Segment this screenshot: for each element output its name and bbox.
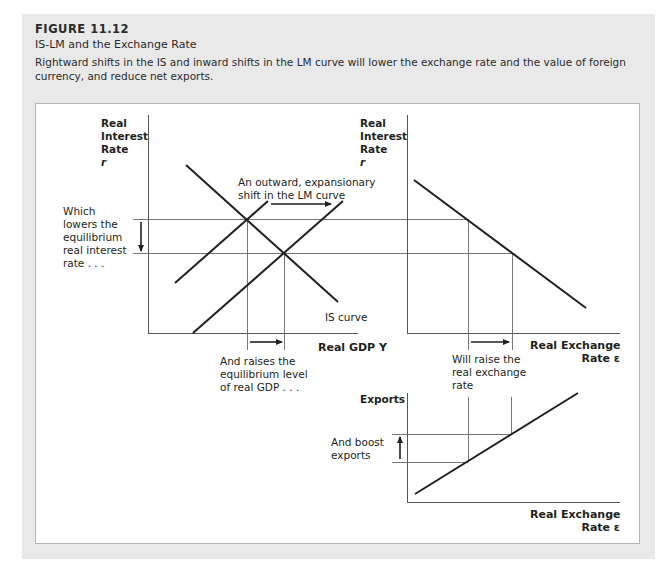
x-label-line: Real Exchange — [530, 508, 620, 521]
exchange-x-axis-label: Real Exchange Rate ε — [530, 339, 620, 365]
lm-curve-initial — [175, 201, 268, 283]
x-label-line: Rate ε — [530, 521, 620, 534]
y-label-line: Real — [360, 117, 407, 130]
annotation-line: An outward, expansionary — [238, 176, 376, 189]
annotation-line: equilibrium — [63, 231, 127, 244]
annotation-line: rate — [452, 379, 526, 392]
annotation-line: And raises the — [220, 355, 308, 368]
exchange-rate-curve — [414, 180, 586, 308]
x-label-line: Real Exchange — [530, 339, 620, 352]
exchange-guide-lines — [469, 219, 513, 350]
exports-rise-annotation: And boost exports — [331, 436, 384, 462]
exports-curve — [415, 393, 578, 494]
annotation-line: of real GDP . . . — [220, 381, 308, 394]
islm-exchange-diagram — [0, 0, 665, 577]
annotation-line: And boost — [331, 436, 384, 449]
exchange-axes — [407, 115, 620, 334]
annotation-line: lowers the — [63, 218, 127, 231]
islm-x-axis-label: Real GDP Y — [318, 341, 387, 354]
exports-axes — [407, 393, 620, 503]
islm-guide-lines — [133, 219, 512, 350]
annotation-line: equilibrium level — [220, 368, 308, 381]
is-curve-label: IS curve — [325, 311, 368, 324]
y-label-line: Real — [101, 117, 148, 130]
annotation-line: exports — [331, 449, 384, 462]
y-label-symbol: r — [360, 156, 407, 169]
exchange-y-axis-label: Real Interest Rate r — [360, 117, 407, 169]
y-label-line: Interest — [101, 130, 148, 143]
y-label-symbol: r — [101, 156, 148, 169]
exports-x-axis-label: Real Exchange Rate ε — [530, 508, 620, 534]
exports-y-axis-label: Exports — [360, 393, 405, 406]
gdp-rise-annotation: And raises the equilibrium level of real… — [220, 355, 308, 394]
annotation-line: shift in the LM curve — [238, 189, 376, 202]
lm-shift-annotation: An outward, expansionary shift in the LM… — [238, 176, 376, 202]
rate-fall-annotation: Which lowers the equilibrium real intere… — [63, 205, 127, 270]
y-label-line: Rate — [101, 143, 148, 156]
y-label-line: Interest — [360, 130, 407, 143]
y-label-line: Rate — [360, 143, 407, 156]
x-label-line: Rate ε — [530, 352, 620, 365]
annotation-line: real interest — [63, 244, 127, 257]
annotation-line: rate . . . — [63, 257, 127, 270]
annotation-line: real exchange — [452, 366, 526, 379]
exports-guide-lines — [392, 397, 512, 463]
annotation-line: Which — [63, 205, 127, 218]
annotation-line: Will raise the — [452, 353, 526, 366]
lm-curve-shifted — [193, 201, 343, 333]
islm-y-axis-label: Real Interest Rate r — [101, 117, 148, 169]
exchange-rise-annotation: Will raise the real exchange rate — [452, 353, 526, 392]
